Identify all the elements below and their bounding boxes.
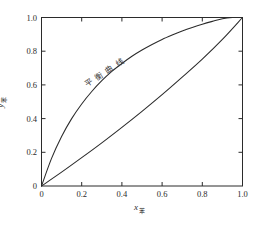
plot-frame [42,18,243,187]
y-axis-symbol: y [0,103,5,107]
vle-equilibrium-figure: 00.20.40.60.81.0 00.20.40.60.81.0 x苯 y苯 … [0,0,263,227]
x-tick-label: 0 [39,190,43,199]
y-tick-label: 0.4 [12,114,37,123]
y-axis-subscript: 苯 [1,97,7,104]
y-tick-label: 0.6 [12,81,37,90]
x-tick-label: 0.8 [197,190,208,199]
x-axis-subscript: 苯 [138,208,145,214]
x-tick-label: 0.2 [76,190,87,199]
axes-frame [42,18,243,187]
x-axis-title: x苯 [134,203,145,214]
y-tick-label: 1.0 [12,13,37,22]
x-tick-label: 0.4 [117,190,128,199]
y-axis-title: y苯 [0,97,7,108]
x-tick-label: 0.6 [157,190,168,199]
y-tick-label: 0 [12,182,37,191]
x-tick-label: 1.0 [237,190,248,199]
y-tick-label: 0.8 [12,47,37,56]
y-tick-label: 0.2 [12,148,37,157]
